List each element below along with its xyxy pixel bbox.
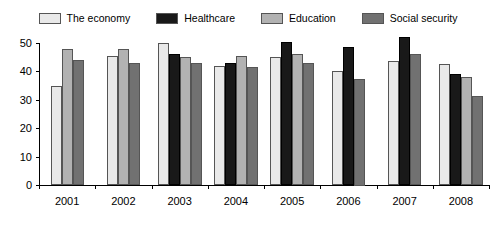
legend-swatch-icon bbox=[156, 13, 178, 24]
legend-item-label: The economy bbox=[67, 13, 131, 24]
x-tick-label: 2006 bbox=[322, 196, 374, 207]
plot-area: 50403020100 2001200220032004200520062007… bbox=[0, 30, 496, 226]
legend-item-label: Education bbox=[289, 13, 336, 24]
x-tick-label: 2007 bbox=[379, 196, 431, 207]
legend-item-label: Social security bbox=[390, 13, 458, 24]
chart-legend: The economyHealthcareEducationSocial sec… bbox=[0, 8, 496, 28]
x-tick-label: 2005 bbox=[266, 196, 318, 207]
legend-item[interactable]: Social security bbox=[362, 13, 458, 24]
legend-swatch-icon bbox=[261, 13, 283, 24]
bar-chart: The economyHealthcareEducationSocial sec… bbox=[0, 0, 496, 226]
x-tick-label: 2008 bbox=[435, 196, 487, 207]
legend-item[interactable]: Education bbox=[261, 13, 336, 24]
x-tick-label: 2004 bbox=[210, 196, 262, 207]
legend-item-label: Healthcare bbox=[184, 13, 235, 24]
x-axis-labels: 20012002200320042005200620072008 bbox=[0, 30, 496, 226]
legend-swatch-icon bbox=[362, 13, 384, 24]
legend-item[interactable]: The economy bbox=[39, 13, 131, 24]
legend-item[interactable]: Healthcare bbox=[156, 13, 235, 24]
x-tick-label: 2001 bbox=[41, 196, 93, 207]
legend-swatch-icon bbox=[39, 13, 61, 24]
x-tick-label: 2002 bbox=[97, 196, 149, 207]
x-tick-label: 2003 bbox=[154, 196, 206, 207]
